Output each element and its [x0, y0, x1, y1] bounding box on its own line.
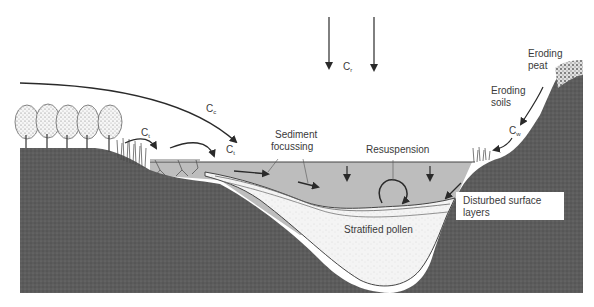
label-trunk-2: Ct [226, 144, 235, 156]
label-eroding-soils: Eroding soils [491, 85, 528, 108]
label-rain: Cr [343, 61, 352, 73]
label-canopy: Cc [206, 103, 216, 115]
label-stratified-pollen: Stratified pollen [344, 224, 413, 235]
tree [56, 105, 80, 148]
reeds-right [473, 147, 490, 162]
label-resuspension: Resuspension [366, 144, 429, 155]
tree [98, 105, 122, 152]
trunk-arrow-2 [170, 143, 214, 156]
label-trunk-1: Ct [141, 127, 150, 139]
tree [15, 105, 39, 148]
tree [77, 105, 99, 149]
trees [15, 104, 122, 152]
label-sediment-focussing: Sediment focussing [271, 129, 320, 152]
label-water: Cw [509, 125, 521, 137]
erosion-arrow-soils [494, 138, 512, 150]
lake-pollen-diagram: Cr Cc Ct Ct Cw Eroding peat Eroding soil… [0, 0, 594, 307]
